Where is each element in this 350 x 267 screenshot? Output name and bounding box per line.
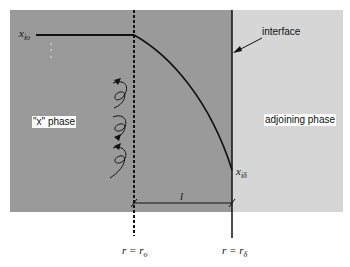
adjoining-phase-label: adjoining phase bbox=[264, 114, 336, 126]
rdelta-position-label: r = rδ bbox=[222, 244, 247, 259]
arrowhead-icon bbox=[233, 46, 242, 53]
diagram-lines bbox=[0, 0, 350, 267]
concentration-profile-curve bbox=[134, 35, 232, 170]
interface-label: interface bbox=[262, 26, 300, 38]
interface-concentration-label: xiδ bbox=[236, 165, 247, 180]
x-phase-label: "x" phase bbox=[32, 116, 76, 128]
eddy-icons bbox=[110, 78, 127, 178]
bulk-concentration-label: xio bbox=[19, 27, 30, 42]
r0-position-label: r = ro bbox=[122, 244, 147, 259]
diagram-canvas: xio xiδ "x" phase adjoining phase interf… bbox=[0, 0, 350, 267]
thickness-label: l bbox=[180, 190, 183, 202]
